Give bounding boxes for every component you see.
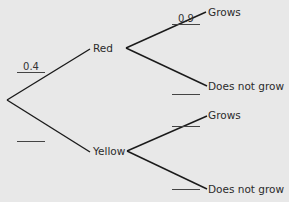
branch-yellow-grows xyxy=(127,116,207,151)
outcome-yellow-grows: Grows xyxy=(208,109,241,121)
outcome-red-does-not-grow: Does not grow xyxy=(208,80,284,92)
tree-diagram: Red Yellow Grows Does not grow Grows Doe… xyxy=(0,0,289,202)
prob-red-grows-underline xyxy=(172,24,200,25)
prob-yellow-blank[interactable] xyxy=(17,141,45,142)
prob-yellow-grows-blank[interactable] xyxy=(172,126,200,127)
prob-red-grows: 0.9 xyxy=(172,13,200,24)
branch-red-does-not-grow xyxy=(126,48,207,86)
prob-red: 0.4 xyxy=(17,61,45,72)
tree-branches xyxy=(0,0,289,202)
outcome-red-grows: Grows xyxy=(208,6,241,18)
prob-yellow-does-not-grow-blank[interactable] xyxy=(172,189,200,190)
node-red: Red xyxy=(93,42,113,54)
branch-yellow-does-not-grow xyxy=(127,151,207,189)
branch-root-yellow xyxy=(7,100,90,152)
node-yellow: Yellow xyxy=(93,145,125,157)
prob-red-does-not-grow-blank[interactable] xyxy=(172,94,200,95)
outcome-yellow-does-not-grow: Does not grow xyxy=(208,183,284,195)
prob-red-underline xyxy=(17,72,45,73)
branch-root-red xyxy=(7,49,90,100)
